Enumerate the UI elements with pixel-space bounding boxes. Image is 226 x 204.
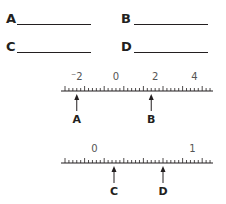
arrow-up-icon bbox=[161, 166, 166, 172]
arrow-up-icon bbox=[74, 94, 79, 100]
tick-label: 0 bbox=[91, 143, 97, 154]
tick-label: 1 bbox=[189, 143, 195, 154]
arrow-up-icon bbox=[149, 94, 154, 100]
number-line-1: ⁻2024AB bbox=[61, 71, 213, 126]
tick-label: 0 bbox=[113, 71, 119, 82]
number-line-2: 01CD bbox=[61, 143, 213, 198]
number-lines: ⁻2024AB 01CD bbox=[0, 0, 226, 204]
tick-label: 4 bbox=[191, 71, 197, 82]
arrow-label-c: C bbox=[110, 185, 118, 198]
arrow-label-a: A bbox=[73, 113, 82, 126]
arrow-label-d: D bbox=[158, 185, 167, 198]
tick-label: 2 bbox=[152, 71, 158, 82]
tick-label: ⁻2 bbox=[71, 71, 83, 82]
arrow-up-icon bbox=[112, 166, 117, 172]
arrow-label-b: B bbox=[147, 113, 155, 126]
